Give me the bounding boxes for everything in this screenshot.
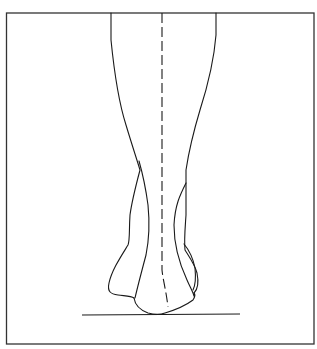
vertical-dashed-axis [162,13,168,307]
ground-line [82,314,240,315]
heel-outline [134,293,195,315]
leg-outline-left [108,13,140,298]
leg-inner-line-right [174,183,194,296]
diagram-figure [0,0,317,349]
frame-border [7,13,315,344]
